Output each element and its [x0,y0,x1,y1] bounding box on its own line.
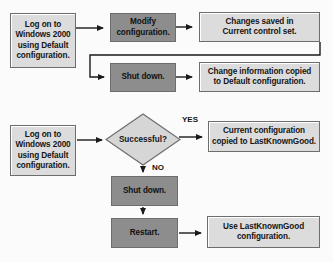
node-current-config-copied-lastknowngood[interactable]: Current configuration copied to LastKnow… [208,121,320,152]
node-text-line1: Modify [113,17,173,28]
node-text-line1: Log on to [13,20,73,31]
node-text-line3: using Default [13,41,73,52]
node-shut-down-top[interactable]: Shut down. [110,63,176,92]
node-text-line4: configuration. [13,51,73,62]
node-logon-default-bottom[interactable]: Log on to Windows 2000 using Default con… [10,125,76,176]
node-change-info-copied-default[interactable]: Change information copied to Default con… [199,62,320,92]
node-text-line2: Windows 2000 [13,30,73,41]
node-text-line2: configuration. [113,28,173,39]
node-text-line2: configuration. [210,232,317,243]
node-text-line1: Shut down. [113,72,173,83]
node-text-line3: using Default [13,151,73,162]
node-shut-down-bottom[interactable]: Shut down. [111,176,178,206]
node-text-line1: Log on to [13,130,73,141]
node-text-line2: Current control set. [202,27,317,38]
node-text-line1: Current configuration [211,126,317,137]
node-logon-default-top[interactable]: Log on to Windows 2000 using Default con… [10,13,76,68]
flowchart-diagram: Log on to Windows 2000 using Default con… [0,0,333,262]
node-text-line2: Windows 2000 [13,140,73,151]
node-text-line1: Restart. [114,228,175,239]
node-text-line1: Use LastKnownGood [210,222,317,233]
edge-label-yes: YES [182,115,198,124]
diamond-shape [105,113,181,166]
edge-label-no: NO [152,163,164,172]
node-modify-configuration[interactable]: Modify configuration. [110,13,176,42]
node-use-lastknowngood-configuration[interactable]: Use LastKnownGood configuration. [207,216,320,248]
node-decision-successful[interactable]: Successful? [105,113,181,166]
node-text-line1: Change information copied [202,67,317,78]
node-text-line1: Changes saved in [202,17,317,28]
node-restart[interactable]: Restart. [111,218,178,248]
node-changes-saved-current-control-set[interactable]: Changes saved in Current control set. [199,12,320,42]
node-text-line1: Shut down. [114,186,175,197]
node-text-line4: configuration. [13,161,73,172]
node-text-line2: to Default configuration. [202,77,317,88]
node-text-line2: copied to LastKnownGood. [211,137,317,148]
